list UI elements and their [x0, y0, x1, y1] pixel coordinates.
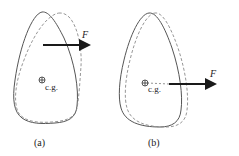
panel-b: F c.g. (b)	[119, 13, 217, 149]
force-label-a: F	[81, 29, 89, 40]
force-label-b: F	[209, 68, 217, 79]
body-outline-displaced	[16, 13, 82, 122]
body-outline-original	[14, 12, 78, 124]
caption-a: (a)	[34, 137, 45, 149]
cg-label-b: c.g.	[148, 84, 161, 94]
caption-b: (b)	[148, 137, 160, 149]
rigid-body-force-diagram: F c.g. (a) F c.g. (b)	[0, 0, 239, 156]
body-outline-original	[119, 13, 181, 127]
panel-a: F c.g. (a)	[14, 12, 89, 149]
cg-label-a: c.g.	[45, 82, 58, 92]
